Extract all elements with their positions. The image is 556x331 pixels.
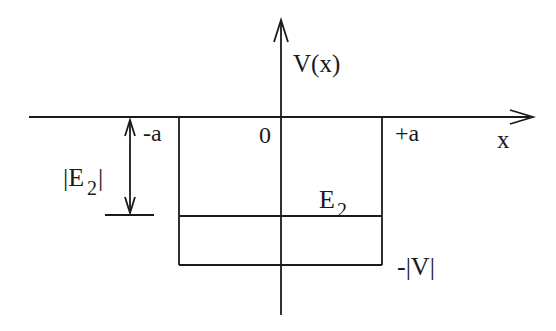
binding-energy-label: |E 2 | [63,163,103,199]
y-axis-label: V(x) [293,50,340,78]
binding-energy-label-subscript: 2 [87,177,97,199]
x-axis-label: x [497,126,510,153]
binding-energy-label-close: | [98,163,103,192]
right-edge-label: +a [395,120,420,146]
binding-energy-double-arrow-icon [125,120,135,213]
potential-well-diagram: V(x) x 0 -a +a -|V| E 2 |E 2 | [0,0,556,331]
origin-label: 0 [259,122,271,148]
well-depth-label: -|V| [397,252,435,281]
energy-level-label-subscript: 2 [337,199,347,221]
binding-energy-label-open: |E [63,163,84,192]
energy-level-label-main: E [319,185,335,214]
left-edge-label: -a [143,120,162,146]
y-axis [274,20,288,315]
